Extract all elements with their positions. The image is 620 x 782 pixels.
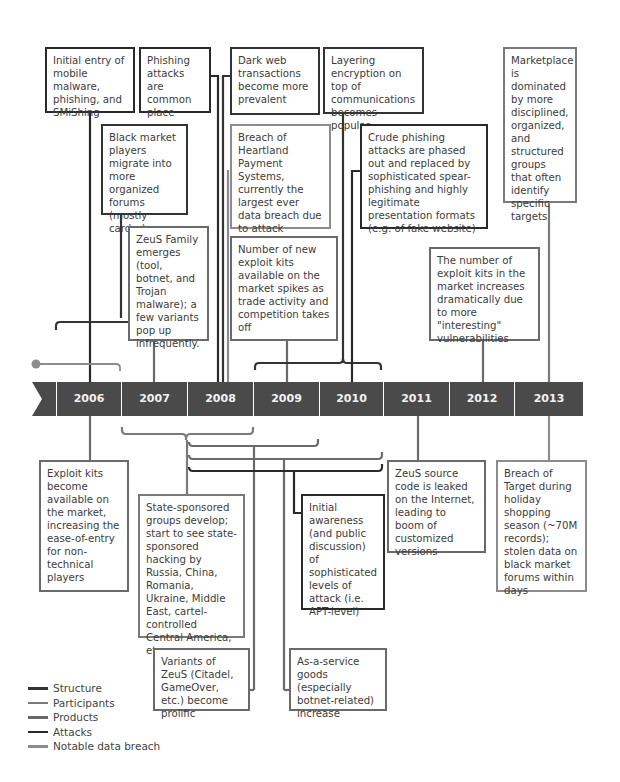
event-marketplace-dominated: Marketplace is dominated by more discipl… — [503, 47, 577, 203]
legend-item-participants: Participants — [28, 696, 160, 711]
year-2010: 2010 — [320, 382, 383, 416]
event-mobile-malware: Initial entry of mobile malware, phishin… — [45, 47, 135, 113]
legend-item-structure: Structure — [28, 681, 160, 696]
legend-item-notable-data-breach: Notable data breach — [28, 739, 160, 754]
legend-swatch-participants — [28, 702, 48, 705]
legend-label: Products — [53, 711, 98, 723]
legend-label: Participants — [53, 697, 115, 709]
event-dark-web: Dark web transactions become more preval… — [230, 47, 320, 115]
legend-label: Attacks — [53, 726, 92, 738]
year-2009: 2009 — [254, 382, 319, 416]
year-2011: 2011 — [384, 382, 449, 416]
legend-swatch-structure — [28, 687, 48, 690]
event-crude-phishing: Crude phishing attacks are phased out an… — [360, 124, 488, 229]
legend-item-attacks: Attacks — [28, 725, 160, 740]
year-2012: 2012 — [450, 382, 514, 416]
event-phishing-common: Phishing attacks are common place — [139, 47, 211, 113]
legend-label: Notable data breach — [53, 740, 160, 752]
event-target-breach: Breach of Target during holiday shopping… — [496, 460, 587, 592]
event-exploit-kits-spike: Number of new exploit kits available on … — [230, 236, 338, 341]
legend-label: Structure — [53, 682, 102, 694]
legend-swatch-attacks — [28, 731, 48, 734]
timeline-arrow-tail — [32, 382, 56, 416]
event-as-a-service: As-a-service goods (especially botnet-re… — [289, 648, 387, 711]
legend: Structure Participants Products Attacks … — [28, 681, 160, 754]
event-exploit-kits-increase: The number of exploit kits in the market… — [429, 247, 540, 341]
event-zeus-leaked: ZeuS source code is leaked on the Intern… — [387, 460, 486, 553]
year-2008: 2008 — [188, 382, 253, 416]
event-zeus-family: ZeuS Family emerges (tool, botnet, and T… — [128, 226, 209, 341]
year-2006: 2006 — [57, 382, 121, 416]
legend-item-products: Products — [28, 710, 160, 725]
event-apt-awareness: Initial awareness (and public discussion… — [301, 494, 385, 610]
event-heartland-breach: Breach of Heartland Payment Systems, cur… — [230, 124, 331, 229]
event-state-sponsored: State-sponsored groups develop; start to… — [138, 494, 245, 638]
event-black-market-forums: Black market players migrate into more o… — [101, 124, 188, 215]
legend-swatch-products — [28, 716, 48, 719]
year-2013: 2013 — [515, 382, 583, 416]
legend-swatch-breach — [28, 745, 48, 748]
event-zeus-variants: Variants of ZeuS (Citadel, GameOver, etc… — [153, 648, 250, 711]
year-2007: 2007 — [122, 382, 187, 416]
event-layering-encryption: Layering encryption on top of communicat… — [323, 47, 424, 114]
event-exploit-kits-available: Exploit kits become available on the mar… — [39, 460, 129, 592]
